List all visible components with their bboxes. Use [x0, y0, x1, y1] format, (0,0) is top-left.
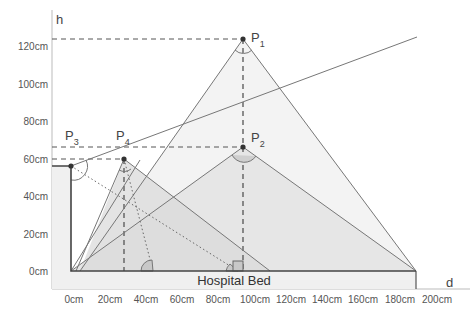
- x-tick-labels: 0cm 20cm 40cm 60cm 80cm 100cm 120cm 140c…: [65, 294, 452, 305]
- point-p1: [240, 36, 245, 41]
- hospital-bed-geometry-diagram: P1 P2 P3 P4 h d 120cm 100cm 80cm 60cm 40…: [0, 0, 474, 320]
- wall-fill: [52, 166, 71, 289]
- diagram-stage: P1 P2 P3 P4 h d 120cm 100cm 80cm 60cm 40…: [0, 0, 474, 320]
- svg-text:200cm: 200cm: [422, 294, 452, 305]
- svg-text:0cm: 0cm: [29, 266, 48, 277]
- right-angle-marker: [233, 261, 243, 271]
- svg-text:80cm: 80cm: [24, 116, 48, 127]
- svg-text:180cm: 180cm: [385, 294, 415, 305]
- point-p3: [68, 163, 73, 168]
- y-axis-label: h: [56, 12, 63, 27]
- svg-text:100cm: 100cm: [18, 79, 48, 90]
- x-axis-label: d: [446, 275, 453, 290]
- bed-label: Hospital Bed: [197, 273, 271, 288]
- point-p4: [121, 156, 126, 161]
- svg-text:60cm: 60cm: [170, 294, 194, 305]
- point-p2: [240, 144, 245, 149]
- svg-text:160cm: 160cm: [348, 294, 378, 305]
- svg-text:0cm: 0cm: [65, 294, 84, 305]
- svg-text:20cm: 20cm: [24, 229, 48, 240]
- svg-text:40cm: 40cm: [134, 294, 158, 305]
- svg-text:20cm: 20cm: [98, 294, 122, 305]
- svg-text:120cm: 120cm: [18, 41, 48, 52]
- svg-text:100cm: 100cm: [240, 294, 270, 305]
- y-tick-labels: 120cm 100cm 80cm 60cm 40cm 20cm 0cm: [18, 41, 48, 277]
- label-p1: P1: [251, 30, 265, 49]
- svg-text:120cm: 120cm: [276, 294, 306, 305]
- label-p3: P3: [65, 128, 79, 147]
- svg-text:140cm: 140cm: [312, 294, 342, 305]
- label-p4: P4: [116, 128, 130, 147]
- svg-text:80cm: 80cm: [206, 294, 230, 305]
- svg-text:40cm: 40cm: [24, 191, 48, 202]
- svg-text:60cm: 60cm: [24, 154, 48, 165]
